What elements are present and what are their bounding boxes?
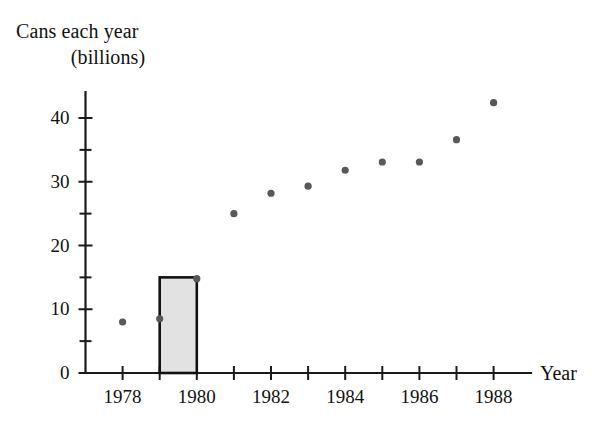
x-tick-label-1980: 1980 — [162, 387, 232, 406]
data-point-1981 — [230, 210, 237, 217]
y-tick-label-30: 30 — [24, 172, 70, 191]
data-point-1978 — [119, 318, 126, 325]
highlight-bar-1979-1980 — [160, 277, 197, 373]
data-point-1985 — [379, 158, 386, 165]
plot-area — [0, 0, 599, 430]
x-tick-label-1978: 1978 — [88, 387, 158, 406]
x-axis-title: Year — [540, 363, 577, 383]
data-point-1984 — [342, 167, 349, 174]
data-point-1979 — [156, 315, 163, 322]
y-tick-label-0: 0 — [24, 363, 70, 382]
x-tick-label-1986: 1986 — [384, 387, 454, 406]
data-point-1980 — [193, 275, 200, 282]
chart-figure: Cans each year (billions) 010203040 1978… — [0, 0, 599, 430]
x-tick-label-1988: 1988 — [459, 387, 529, 406]
data-point-1986 — [416, 158, 423, 165]
axes-group — [85, 92, 531, 373]
x-tick-label-1984: 1984 — [310, 387, 380, 406]
data-point-1987 — [453, 136, 460, 143]
y-tick-label-20: 20 — [24, 236, 70, 255]
data-point-1988 — [490, 99, 497, 106]
y-tick-label-40: 40 — [24, 108, 70, 127]
highlight-bars — [160, 277, 197, 373]
data-point-1983 — [305, 183, 312, 190]
y-tick-label-10: 10 — [24, 299, 70, 318]
x-tick-label-1982: 1982 — [236, 387, 306, 406]
data-point-1982 — [267, 190, 274, 197]
